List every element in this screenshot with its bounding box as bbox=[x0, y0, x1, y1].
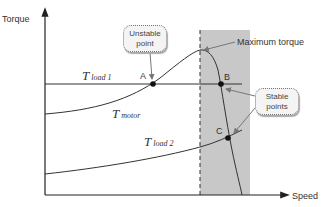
y-axis-label: Torque bbox=[2, 14, 30, 24]
point-b-label: B bbox=[224, 72, 230, 82]
load1-label: Tload 1 bbox=[82, 68, 111, 83]
motor-label: Tmotor bbox=[112, 106, 141, 121]
point-c-label: C bbox=[216, 126, 223, 136]
unstable-arrow bbox=[150, 52, 152, 79]
point-c-marker bbox=[225, 135, 231, 141]
stable-points-callout: Stable points bbox=[255, 88, 299, 115]
max-torque-label: Maximum torque bbox=[237, 37, 304, 47]
stable-callout-line2: points bbox=[256, 102, 298, 112]
point-b-marker bbox=[218, 81, 224, 87]
unstable-point-callout: Unstable point bbox=[123, 25, 167, 52]
point-a-label: A bbox=[140, 71, 146, 81]
unstable-callout-line2: point bbox=[124, 39, 166, 49]
load2-label: Tload 2 bbox=[144, 134, 173, 149]
unstable-callout-line1: Unstable bbox=[124, 29, 166, 39]
stable-callout-line1: Stable bbox=[256, 92, 298, 102]
point-a-marker bbox=[150, 81, 156, 87]
x-axis-label: Speed bbox=[292, 191, 318, 201]
